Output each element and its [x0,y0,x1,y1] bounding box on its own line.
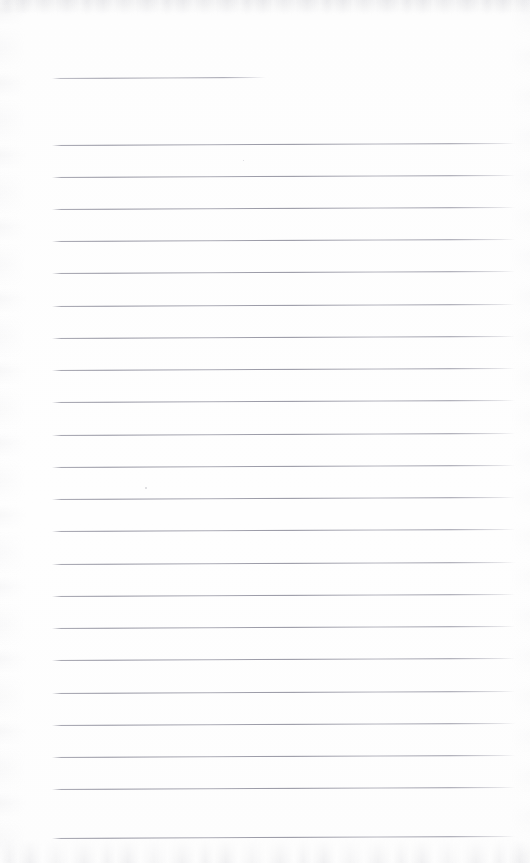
rule-line [52,497,515,500]
rule-line [52,626,515,629]
rule-line [52,594,515,597]
rule-line [52,239,515,242]
title-rule-line [52,77,266,79]
rule-line [52,529,515,532]
rule-line [52,836,515,839]
rule-line [52,723,515,726]
paper-speck [145,487,147,489]
rule-line [52,787,515,790]
rule-line [52,304,515,307]
ruled-lines-layer [0,0,530,863]
rule-line [52,400,515,403]
rule-line [52,755,515,758]
scanned-page [0,0,530,863]
rule-line [52,143,515,146]
rule-line [52,336,515,339]
paper-speck [243,160,244,161]
rule-line [52,691,515,694]
rule-line [52,562,515,565]
rule-line [52,207,515,210]
rule-line [52,271,515,274]
rule-line [52,433,515,436]
rule-line [52,368,515,371]
rule-line [52,465,515,468]
rule-line [52,658,515,661]
rule-line [52,175,515,178]
